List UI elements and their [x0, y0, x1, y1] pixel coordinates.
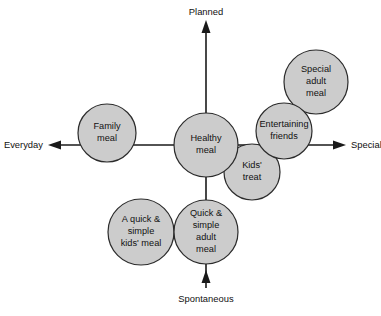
everyday-arrowhead-icon [48, 141, 61, 150]
bubble-label-line: Quick & [190, 208, 222, 218]
bubble-healthy-meal: Healthy meal [174, 113, 238, 177]
bubble-label-line: simple [128, 226, 155, 236]
axis-label-everyday: Everyday [4, 139, 43, 150]
diagram-canvas: A quick & simple kids' meal Kids' treat … [0, 0, 381, 316]
spontaneous-arrowhead-icon [202, 270, 211, 283]
bubble-label-line: A quick & [122, 214, 160, 224]
bubble-label-line: treat [243, 172, 262, 182]
positioning-map-diagram: A quick & simple kids' meal Kids' treat … [0, 0, 381, 316]
bubble-entertaining-friends: Entertaining friends [256, 103, 312, 159]
bubble-quick-simple-adult-meal: Quick & simple adult meal [174, 200, 238, 264]
bubble-label-line: kids' meal [121, 238, 162, 248]
axis-label-special: Special [351, 139, 381, 150]
bubble-label-line: meal [306, 88, 326, 98]
bubble-label-line: simple [193, 220, 220, 230]
bubble-label-line: meal [196, 244, 216, 254]
bubble-label-line: Special [301, 64, 331, 74]
bubble-label-line: adult [306, 76, 326, 86]
planned-arrowhead-icon [202, 20, 211, 33]
bubble-label-line: meal [196, 145, 216, 155]
bubble-label-line: Healthy [190, 133, 222, 143]
bubble-label-line: Entertaining [259, 119, 308, 129]
bubble-label-line: adult [196, 232, 216, 242]
axis-label-spontaneous: Spontaneous [178, 293, 234, 304]
special-arrowhead-icon [333, 141, 346, 150]
bubble-label-line: meal [97, 133, 117, 143]
bubble-family-meal: Family meal [78, 104, 136, 162]
bubble-quick-simple-kids-meal: A quick & simple kids' meal [108, 199, 174, 265]
bubble-label-line: Kids' [242, 160, 262, 170]
bubble-label-line: Family [93, 121, 120, 131]
bubble-label-line: friends [270, 131, 298, 141]
axis-label-planned: Planned [189, 6, 223, 17]
